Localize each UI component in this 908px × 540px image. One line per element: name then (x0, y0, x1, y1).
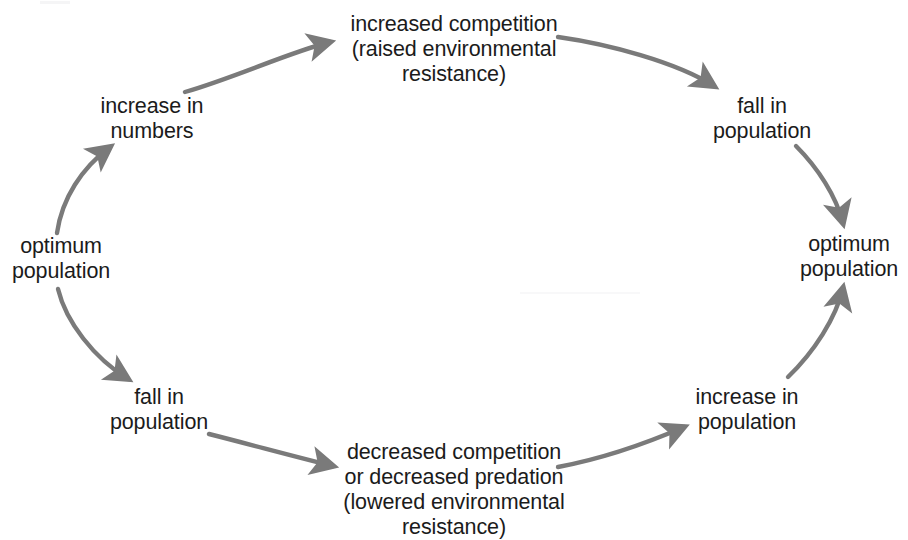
node-fall-in-population-bottom: fall in population (95, 385, 223, 435)
node-increase-in-population: increase in population (682, 385, 812, 435)
node-decreased-competition: decreased competition or decreased preda… (318, 440, 590, 540)
node-optimum-population-left: optimum population (0, 234, 122, 284)
arrow-increase-pop-to-optimum-right (788, 288, 843, 377)
arrow-fall-top-to-optimum-right (796, 146, 843, 223)
arrow-increase-numbers-to-increased-competition (185, 42, 330, 92)
cycle-diagram-canvas: increased competition (raised environmen… (0, 0, 908, 540)
arrow-optimum-left-to-fall-bottom (58, 289, 128, 379)
arrow-optimum-left-to-increase-numbers (57, 147, 110, 233)
node-increased-competition: increased competition (raised environmen… (318, 12, 590, 87)
node-fall-in-population-top: fall in population (700, 94, 824, 144)
node-optimum-population-right: optimum population (790, 232, 908, 282)
arrow-fall-bottom-to-decreased-competition (209, 434, 333, 466)
node-increase-in-numbers: increase in numbers (85, 94, 219, 144)
